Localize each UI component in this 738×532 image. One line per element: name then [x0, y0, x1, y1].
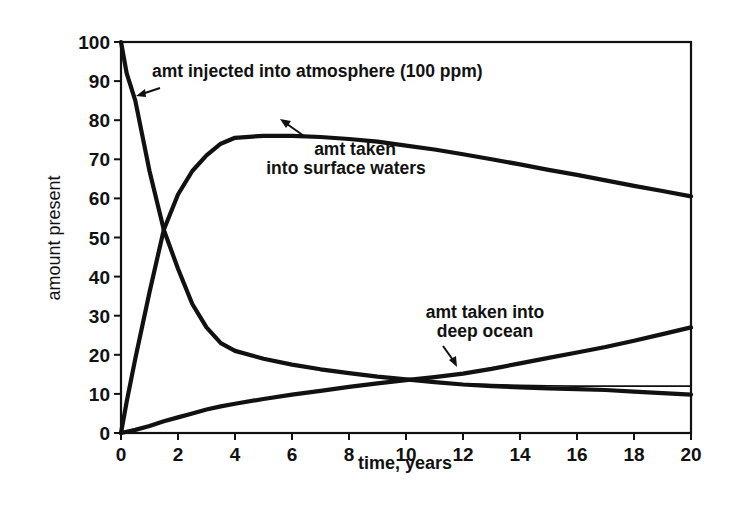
x-tick-label: 14: [509, 444, 531, 465]
x-tick-label: 8: [344, 444, 355, 465]
x-tick-label: 6: [287, 444, 298, 465]
y-tick-label: 90: [89, 71, 110, 92]
x-tick-label: 12: [452, 444, 473, 465]
y-axis: 0102030405060708090100: [78, 32, 121, 444]
y-tick-label: 70: [89, 149, 110, 170]
x-tick-label: 20: [680, 444, 701, 465]
y-tick-label: 40: [89, 267, 110, 288]
arrow-icon: [443, 346, 457, 367]
y-tick-label: 0: [99, 423, 110, 444]
x-tick-label: 18: [623, 444, 644, 465]
x-tick-label: 2: [173, 444, 184, 465]
y-tick-label: 50: [89, 228, 110, 249]
arrow-icon: [136, 88, 160, 97]
annotation-deep-line1: amt taken into: [426, 302, 545, 322]
annotation-surface-line2: into surface waters: [266, 158, 426, 178]
y-tick-label: 80: [89, 110, 110, 131]
series-layer: [121, 42, 691, 433]
series-deep-ocean: [121, 327, 691, 433]
x-tick-label: 16: [566, 444, 587, 465]
y-tick-label: 100: [78, 32, 110, 53]
y-tick-label: 10: [89, 384, 110, 405]
y-tick-label: 30: [89, 306, 110, 327]
annotation-deep-line2: deep ocean: [437, 321, 533, 341]
x-tick-label: 4: [230, 444, 241, 465]
annotation-surface-line1: amt taken: [314, 139, 396, 159]
plot-frame: [121, 42, 691, 433]
series-atmosphere: [121, 42, 691, 395]
y-axis-label: amount present: [44, 175, 64, 300]
y-tick-label: 20: [89, 345, 110, 366]
y-tick-label: 60: [89, 188, 110, 209]
line-chart: 02468101214161820 0102030405060708090100…: [0, 0, 738, 532]
arrow-icon: [280, 119, 304, 136]
x-tick-label: 0: [116, 444, 127, 465]
chart: 02468101214161820 0102030405060708090100…: [0, 0, 738, 532]
x-axis-label: time, years: [358, 453, 452, 473]
annotation-atmosphere: amt injected into atmosphere (100 ppm): [152, 61, 483, 81]
